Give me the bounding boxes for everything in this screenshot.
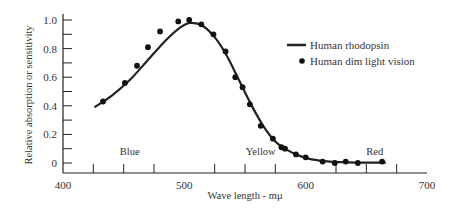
data-point xyxy=(100,99,106,105)
data-point xyxy=(211,31,217,37)
y-tick-label: 0.4 xyxy=(43,100,57,112)
data-point xyxy=(320,159,326,165)
region-label-red: Red xyxy=(366,146,384,157)
absorption-chart: 00.20.40.60.81.0400500600700 Relative ab… xyxy=(0,0,450,212)
x-tick-label: 500 xyxy=(176,179,193,191)
data-point xyxy=(282,146,288,152)
data-point xyxy=(247,101,253,107)
data-point xyxy=(355,160,361,166)
legend-label-rhodopsin: Human rhodopsin xyxy=(310,39,390,51)
data-point xyxy=(145,44,151,50)
x-tick-label: 700 xyxy=(419,179,436,191)
x-tick-label: 600 xyxy=(297,179,314,191)
data-point xyxy=(270,136,276,142)
region-labels: BlueYellowRed xyxy=(120,146,384,157)
data-point xyxy=(303,154,309,160)
data-point xyxy=(232,74,238,80)
y-tick-label: 0 xyxy=(52,157,58,169)
legend-dot-marker xyxy=(299,58,305,64)
data-point xyxy=(240,84,246,90)
data-point xyxy=(332,160,338,166)
y-tick-label: 0.6 xyxy=(43,71,57,83)
y-axis-title: Relative absorption or sensitivity xyxy=(23,25,34,165)
data-point xyxy=(134,63,140,69)
data-point xyxy=(122,80,128,86)
y-axis-label: Relative absorption or sensitivity xyxy=(23,25,34,165)
y-tick-label: 0.8 xyxy=(43,43,57,55)
data-point xyxy=(175,19,181,25)
y-tick-label: 1.0 xyxy=(43,14,57,26)
region-label-blue: Blue xyxy=(120,146,140,157)
x-tick-label: 400 xyxy=(55,179,72,191)
y-tick-label: 0.2 xyxy=(43,128,57,140)
data-point xyxy=(198,21,204,27)
region-label-yellow: Yellow xyxy=(246,146,276,157)
data-point xyxy=(223,49,229,55)
legend-label-dim-light: Human dim light vision xyxy=(310,55,415,67)
data-point xyxy=(379,159,385,165)
legend: Human rhodopsin Human dim light vision xyxy=(287,39,415,67)
data-point xyxy=(258,123,264,129)
data-point xyxy=(157,29,163,35)
data-point xyxy=(186,17,192,23)
data-point xyxy=(293,152,299,158)
x-axis-label: Wave length - mμ xyxy=(207,190,282,201)
data-point xyxy=(343,159,349,165)
